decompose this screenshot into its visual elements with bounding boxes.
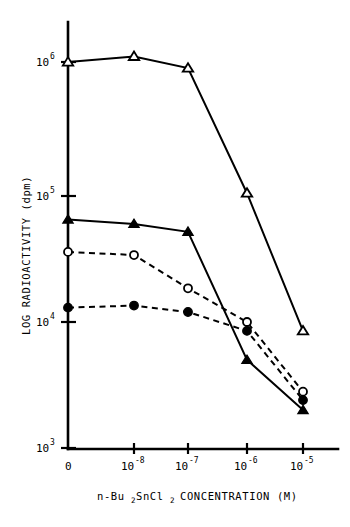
x-axis-title-sub2: 2 bbox=[170, 496, 175, 505]
x-axis-title-suffix: CONCENTRATION (M) bbox=[180, 490, 298, 502]
data-point-open-circle-3 bbox=[243, 318, 251, 326]
data-point-open-circle-4 bbox=[299, 388, 307, 396]
data-point-filled-circle-3 bbox=[243, 327, 252, 336]
series-line-filled-circle bbox=[68, 306, 303, 401]
x-tick-label-base-3: 10 bbox=[234, 460, 247, 473]
y-tick-label-base-1: 10 bbox=[36, 190, 49, 203]
y-tick-label-exp-2: 4 bbox=[50, 312, 55, 321]
series-markers bbox=[63, 52, 308, 414]
x-tick-label-exp-2: -7 bbox=[189, 456, 199, 465]
y-axis-title: LOG RADIOACTIVITY (dpm) bbox=[20, 176, 32, 335]
y-tick-label-exp-0: 6 bbox=[50, 52, 55, 61]
x-axis-title-prefix: n-Bu bbox=[97, 490, 125, 502]
x-tick-label-base-1: 10 bbox=[121, 460, 134, 473]
data-point-open-triangle-1 bbox=[129, 52, 139, 60]
y-tick-label-exp-3: 3 bbox=[50, 438, 55, 447]
radioactivity-vs-concentration-chart: 106105104103 010-810-710-610-5 LOG RADIO… bbox=[0, 0, 350, 527]
data-point-open-triangle-4 bbox=[298, 326, 308, 334]
x-axis-title-mid: SnCl bbox=[136, 490, 164, 502]
x-tick-label-exp-1: -8 bbox=[135, 456, 145, 465]
y-axis-tick-labels: 106105104103 bbox=[36, 52, 55, 455]
x-tick-label-exp-3: -6 bbox=[248, 456, 258, 465]
data-point-filled-circle-0 bbox=[64, 303, 73, 312]
y-tick-label-exp-1: 5 bbox=[50, 186, 55, 195]
x-tick-label-exp-4: -5 bbox=[304, 456, 314, 465]
x-axis-title: n-Bu 2 SnCl 2 CONCENTRATION (M) bbox=[97, 490, 298, 505]
x-axis-tick-labels: 010-810-710-610-5 bbox=[65, 456, 314, 473]
x-tick-label-base-0: 0 bbox=[65, 460, 72, 473]
data-point-open-circle-2 bbox=[184, 284, 192, 292]
data-point-open-triangle-3 bbox=[242, 188, 252, 196]
x-tick-label-base-2: 10 bbox=[175, 460, 188, 473]
data-point-open-circle-0 bbox=[64, 248, 72, 256]
y-axis-title-text: LOG RADIOACTIVITY (dpm) bbox=[20, 176, 32, 335]
data-point-filled-triangle-3 bbox=[242, 355, 252, 363]
y-tick-label-base-0: 10 bbox=[36, 56, 49, 69]
x-tick-label-base-4: 10 bbox=[290, 460, 303, 473]
y-tick-label-base-2: 10 bbox=[36, 316, 49, 329]
x-axis-title-sub1: 2 bbox=[131, 496, 136, 505]
data-point-open-circle-1 bbox=[130, 251, 138, 259]
data-point-open-triangle-0 bbox=[63, 57, 73, 65]
data-point-filled-circle-2 bbox=[184, 308, 193, 317]
data-point-filled-circle-4 bbox=[299, 396, 308, 405]
series-line-open-circle bbox=[68, 252, 303, 392]
data-point-open-triangle-2 bbox=[183, 63, 193, 71]
data-point-filled-circle-1 bbox=[130, 301, 139, 310]
y-tick-label-base-3: 10 bbox=[36, 442, 49, 455]
chart-figure: 106105104103 010-810-710-610-5 LOG RADIO… bbox=[0, 0, 350, 527]
